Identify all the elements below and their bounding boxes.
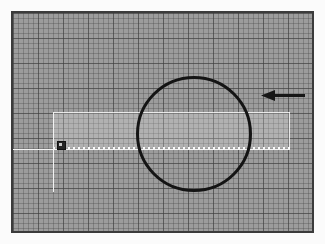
anchor-marker[interactable] [57, 141, 66, 150]
arrow-left-icon [261, 89, 305, 102]
guide-line-vertical[interactable] [53, 112, 54, 192]
canvas-frame[interactable] [11, 11, 314, 233]
direction-arrow [261, 89, 305, 102]
circle-outline[interactable] [136, 76, 252, 192]
drawing-canvas-root [0, 0, 325, 244]
selection-band-right-edge [289, 112, 290, 150]
